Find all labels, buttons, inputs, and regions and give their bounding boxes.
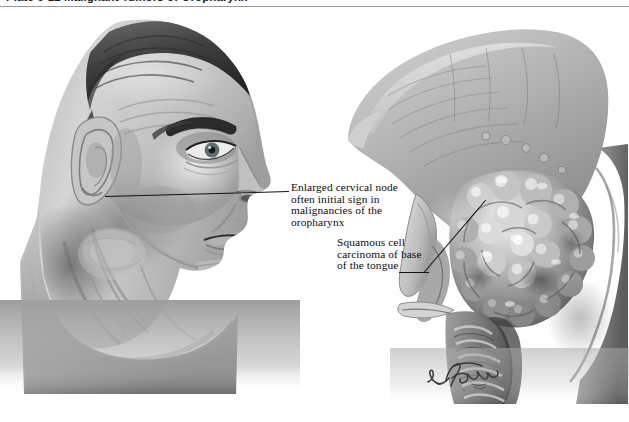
annotation-line: Squamous cell [337,237,422,249]
annotation-enlarged-cervical-node: Enlarged cervical node often initial sig… [291,182,398,228]
lateral-head-profile-figure [0,14,300,394]
page-title: Plate 6-12 Malignant Tumors of Oropharyn… [6,0,248,3]
netter-signature: ~ [424,360,504,394]
annotation-line: Enlarged cervical node [291,182,398,194]
annotation-line: of the tongue [337,260,422,272]
annotation-squamous-cell-carcinoma: Squamous cell carcinoma of base of the t… [337,237,422,272]
annotation-line: oropharynx [291,217,398,229]
plate-page: Plate 6-12 Malignant Tumors of Oropharyn… [0,0,629,422]
svg-text:~: ~ [463,387,466,393]
title-divider [0,6,629,7]
